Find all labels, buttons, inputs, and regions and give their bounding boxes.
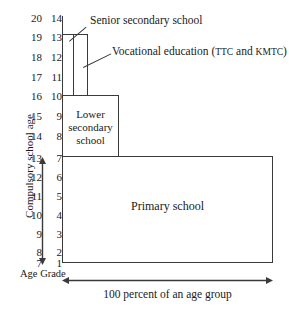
- grade-tick: 8: [46, 129, 62, 143]
- age-tick: 16: [20, 89, 42, 103]
- grade-tick: 4: [46, 208, 62, 222]
- vocational-label-close: ): [283, 45, 287, 57]
- age-header-label: Age: [20, 268, 38, 279]
- age-group-width-caption: 100 percent of an age group: [62, 288, 273, 300]
- grade-tick: 3: [46, 227, 62, 241]
- grade-tick: 5: [46, 189, 62, 203]
- grade-tick: 12: [46, 50, 62, 64]
- grade-tick: 9: [46, 109, 62, 123]
- age-grade-axis-caption: Age Grade: [20, 268, 66, 279]
- education-structure-diagram: 20 19 18 17 16 15 14 13 12 11 10 9 8 7 1…: [0, 0, 289, 314]
- senior-secondary-callout-label: Senior secondary school: [90, 14, 202, 26]
- grade-tick: 11: [46, 70, 62, 84]
- primary-school-label: Primary school: [62, 200, 273, 213]
- vocational-label-main: Vocational education (: [112, 45, 215, 57]
- grade-tick: 6: [46, 170, 62, 184]
- senior-secondary-column: [62, 34, 74, 96]
- age-tick: 17: [20, 70, 42, 84]
- lower-secondary-label-line2: secondary: [62, 121, 119, 134]
- lower-secondary-label-line3: school: [62, 134, 119, 147]
- grade-tick: 7: [46, 151, 62, 165]
- compulsory-school-age-label: Compulsory school age: [23, 111, 35, 221]
- grade-tick: 10: [46, 89, 62, 103]
- lower-secondary-label-line1: Lower: [62, 108, 119, 121]
- grade-tick: 13: [46, 30, 62, 44]
- vocational-education-callout-label: Vocational education (TTC and KMTC): [112, 45, 287, 58]
- age-tick: 18: [20, 50, 42, 64]
- lower-secondary-label: Lower secondary school: [62, 108, 119, 147]
- vocational-label-join: and: [233, 45, 255, 57]
- age-group-width-arrow: [62, 276, 273, 285]
- compulsory-age-bracket-arrow: [38, 157, 47, 265]
- age-tick: 19: [20, 30, 42, 44]
- grade-tick: 14: [46, 11, 62, 25]
- vocational-label-abbr-kmtc: KMTC: [256, 47, 283, 57]
- age-tick: 20: [20, 11, 42, 25]
- vocational-label-abbr-ttc: TTC: [215, 47, 233, 57]
